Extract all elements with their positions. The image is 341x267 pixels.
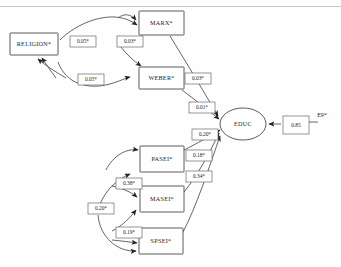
node-label-pasei: PASEI* (151, 155, 172, 162)
path-masei-to-pasei (106, 150, 138, 170)
coefficient-value: 0.05* (85, 76, 97, 82)
node-religion[interactable]: RELIGION* (10, 33, 58, 55)
coefficient-religion-weber[interactable]: 0.05* (78, 74, 104, 85)
node-marx[interactable]: MARX* (139, 11, 184, 35)
coefficient-value: 0.38* (123, 180, 135, 186)
node-weber[interactable]: WEBER* (139, 67, 184, 89)
coefficient-value: 0.18* (193, 152, 205, 158)
node-label-masei: MASEI* (150, 195, 174, 202)
node-label-spsei: SPSEI* (151, 237, 172, 244)
coefficient-spsei-educ[interactable]: 0.34* (186, 171, 212, 182)
path-diagram-svg: RELIGION* MARX* WEBER* EDUC PASEI* MASEI… (0, 0, 341, 267)
coefficient-value: 0.03* (124, 38, 136, 44)
node-masei[interactable]: MASEI* (140, 186, 184, 212)
path-marx-to-weber (121, 47, 141, 66)
node-pasei[interactable]: PASEI* (140, 146, 184, 172)
node-label-religion: RELIGION* (17, 40, 52, 47)
coefficient-value: 0.19* (123, 229, 135, 235)
coefficient-marx-educ[interactable]: 0.01* (189, 102, 215, 113)
path-arrows (38, 15, 318, 251)
node-label-marx: MARX* (150, 19, 173, 26)
coefficient-value: 0.34* (193, 173, 205, 179)
coefficient-pasei-spsei[interactable]: 0.20* (88, 203, 114, 214)
coefficient-value: 0.20* (95, 205, 107, 211)
path-marx-to-religion (42, 58, 56, 78)
coefficient-masei-educ[interactable]: 0.18* (186, 150, 212, 161)
coefficient-value: 0.03* (192, 75, 204, 81)
coefficient-marx-weber[interactable]: 0.03* (117, 36, 143, 47)
coefficient-pasei-educ[interactable]: 0.20* (192, 129, 218, 140)
path-weber-to-religion (38, 59, 66, 78)
node-label-e9: E9* (317, 112, 327, 118)
node-label-weber: WEBER* (148, 74, 174, 81)
coefficient-e9-educ[interactable]: 0.85 (283, 116, 309, 134)
diagram-canvas: RELIGION* MARX* WEBER* EDUC PASEI* MASEI… (0, 0, 341, 267)
coefficient-value: 0.05* (77, 38, 89, 44)
path-masei-to-educ (184, 133, 219, 192)
node-spsei[interactable]: SPSEI* (139, 228, 183, 254)
coefficient-weber-educ[interactable]: 0.03* (185, 73, 211, 84)
coefficient-value: 0.01* (196, 104, 208, 110)
coefficient-pasei-masei[interactable]: 0.38* (116, 178, 142, 189)
node-educ[interactable]: EDUC (220, 108, 266, 140)
coefficient-masei-spsei[interactable]: 0.19* (116, 227, 142, 238)
coefficient-religion-marx[interactable]: 0.05* (70, 36, 96, 47)
coefficient-value: 0.85 (291, 122, 301, 128)
node-label-educ: EDUC (234, 120, 252, 127)
path-masei-to-spsei (112, 240, 137, 243)
coefficient-value: 0.20* (199, 131, 211, 137)
